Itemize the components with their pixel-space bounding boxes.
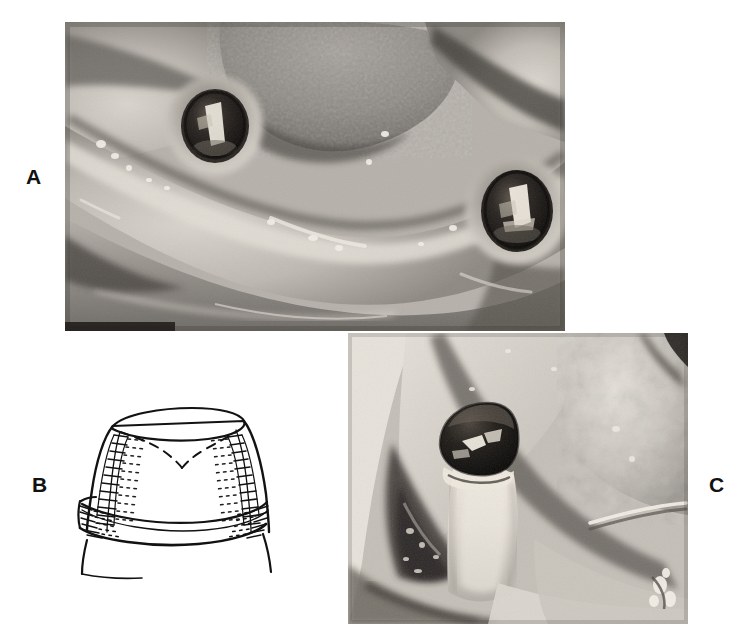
panel-c-photograph xyxy=(348,333,688,624)
panel-b-line-drawing xyxy=(58,382,308,582)
panel-c-image xyxy=(348,333,688,624)
panel-a-photograph xyxy=(65,22,565,331)
panel-a-image xyxy=(65,22,565,331)
figure-root: A xyxy=(0,0,747,644)
panel-label-a: A xyxy=(26,166,41,187)
panel-label-c: C xyxy=(709,474,724,495)
panel-b-image xyxy=(58,382,308,582)
panel-label-b: B xyxy=(32,474,47,495)
